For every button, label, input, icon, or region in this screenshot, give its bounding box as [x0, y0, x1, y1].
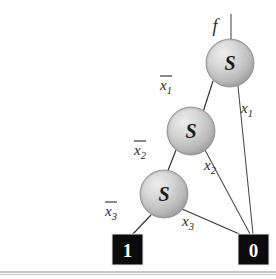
node-s-level1-label: S [224, 52, 235, 74]
svg-text:x3: x3 [104, 203, 117, 222]
terminal-zero-label: 0 [249, 240, 259, 261]
edge-x3-complement-label: x3 [104, 202, 117, 222]
svg-text:x3: x3 [181, 213, 194, 232]
edge-x3-label: x3 [181, 213, 194, 232]
terminal-one[interactable]: 1 [112, 234, 143, 265]
edge-x1-complement-label: x1 [159, 76, 172, 96]
svg-text:x1: x1 [240, 100, 253, 119]
svg-text:x2: x2 [133, 142, 147, 161]
edge-x3-sub: 3 [188, 221, 194, 232]
svg-text:x1: x1 [159, 77, 172, 96]
edge-x3-complement-line[interactable] [131, 215, 151, 236]
node-s-level1[interactable]: S [206, 39, 254, 87]
svg-text:x2: x2 [203, 157, 217, 176]
edge-x2-label: x2 [203, 157, 217, 176]
terminal-one-label: 1 [123, 240, 133, 261]
terminal-zero[interactable]: 0 [238, 234, 269, 265]
edge-x1-complement-sub: 1 [167, 85, 172, 96]
node-s-level3[interactable]: S [140, 170, 188, 218]
root-function-label: f [212, 16, 220, 36]
edge-x1-complement-line[interactable] [203, 81, 213, 112]
edge-x2-complement-label: x2 [133, 141, 147, 161]
edge-x1-sub: 1 [248, 108, 253, 119]
node-s-level2[interactable]: S [167, 107, 215, 155]
edge-x1-label: x1 [240, 100, 253, 119]
edge-x2-sub: 2 [211, 165, 217, 176]
node-s-level3-label: S [158, 183, 169, 205]
edge-x3-complement-sub: 3 [111, 211, 117, 222]
edge-x2-complement-sub: 2 [141, 150, 147, 161]
bdd-figure: S S S 1 0 f x1 [0, 0, 276, 279]
node-s-level2-label: S [185, 120, 196, 142]
edge-x2-complement-line[interactable] [167, 150, 176, 173]
